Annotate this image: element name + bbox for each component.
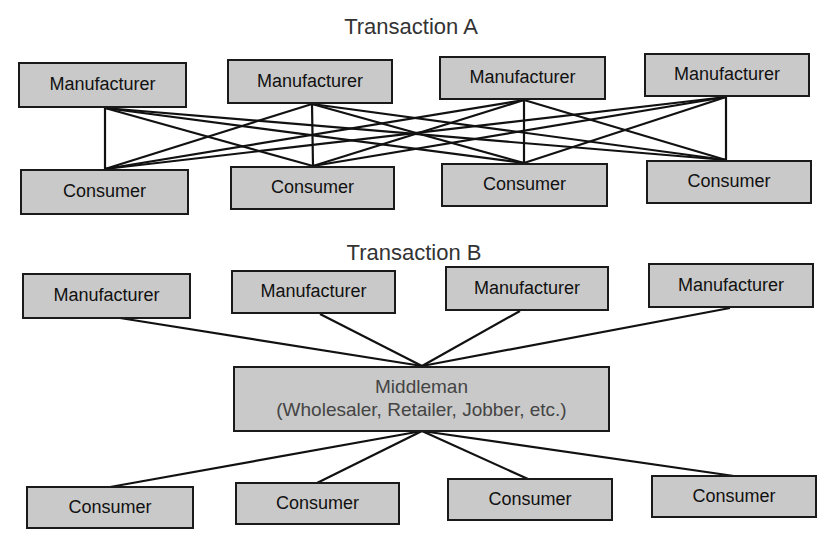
- transaction-b-manufacturer-4: Manufacturer: [648, 263, 814, 308]
- transaction-b-manufacturer-1: Manufacturer: [22, 273, 191, 319]
- transaction-a-consumer-2: Consumer: [230, 166, 395, 210]
- transaction-a-lines: [105, 97, 726, 169]
- transaction-a-title: Transaction A: [344, 14, 478, 40]
- transaction-b-consumer-2: Consumer: [235, 482, 400, 525]
- transaction-b-manufacturer-2: Manufacturer: [231, 270, 396, 314]
- transaction-a-consumer-1: Consumer: [20, 169, 189, 215]
- transaction-a-consumer-4: Consumer: [646, 160, 812, 204]
- transaction-a-manufacturer-4: Manufacturer: [644, 53, 810, 97]
- transaction-a-manufacturer-2: Manufacturer: [227, 59, 393, 104]
- middleman-box: Middleman (Wholesaler, Retailer, Jobber,…: [233, 366, 610, 432]
- transaction-b-manufacturer-3: Manufacturer: [445, 266, 609, 311]
- transaction-b-title: Transaction B: [347, 240, 482, 266]
- transaction-b-consumer-3: Consumer: [447, 478, 613, 521]
- transaction-a-consumer-3: Consumer: [441, 163, 608, 207]
- transaction-a-manufacturer-1: Manufacturer: [18, 62, 187, 108]
- transaction-a-manufacturer-3: Manufacturer: [439, 56, 606, 100]
- transaction-b-consumer-4: Consumer: [651, 475, 817, 518]
- middleman-label: Middleman: [375, 376, 468, 399]
- middleman-sublabel: (Wholesaler, Retailer, Jobber, etc.): [276, 399, 566, 422]
- transaction-b-consumer-1: Consumer: [26, 486, 194, 529]
